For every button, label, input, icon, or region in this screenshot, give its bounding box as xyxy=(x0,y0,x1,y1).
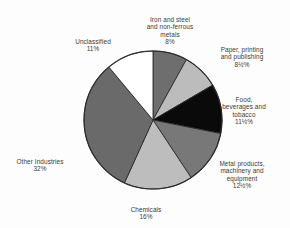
slice-label-value: 8% xyxy=(132,38,208,46)
slice-label-iron-and-steel: Iron and steel and non-ferrous metals 8% xyxy=(132,8,208,54)
slice-label-text: Other Industries xyxy=(16,158,63,165)
slice-label-value: 16% xyxy=(110,213,182,221)
slice-label-paper-printing-publishing: Paper, printing and publishing 8½% xyxy=(200,38,284,76)
slice-label-text: Unclassified xyxy=(75,38,111,45)
slice-label-text: Paper, printing and publishing xyxy=(221,46,264,61)
slice-label-value: 12½% xyxy=(200,182,284,190)
slice-label-text: Food, beverages and tobacco xyxy=(222,96,266,118)
slice-label-value: 11½% xyxy=(204,118,284,126)
pie-chart-figure: Iron and steel and non-ferrous metals 8%… xyxy=(0,0,290,228)
slice-label-unclassified: Unclassified 11% xyxy=(56,30,130,60)
slice-label-other-industries: Other Industries 32% xyxy=(2,150,78,180)
slice-label-food-beverages-tobacco: Food, beverages and tobacco 11½% xyxy=(204,88,284,134)
slice-label-chemicals: Chemicals 16% xyxy=(110,198,182,228)
slice-label-text: Metal products, machinery and equipment xyxy=(219,160,264,182)
slice-label-text: Chemicals xyxy=(131,206,162,213)
slice-label-metal-products: Metal products, machinery and equipment … xyxy=(200,152,284,198)
slice-label-text: Iron and steel and non-ferrous metals xyxy=(147,16,194,38)
slice-label-value: 8½% xyxy=(200,61,284,69)
slice-label-value: 11% xyxy=(56,45,130,53)
slice-label-value: 32% xyxy=(2,165,78,173)
